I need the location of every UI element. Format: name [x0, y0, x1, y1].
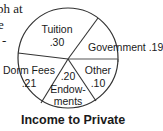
slice-value: .20 [50, 70, 86, 82]
slice-name: Other [83, 64, 113, 76]
slice-value: .19 [149, 41, 163, 53]
slice-value: .30 [40, 36, 74, 48]
slice-label-endowments: .20 Endow- ments [50, 70, 86, 107]
slice-label-dorm-fees: Dorm Fees .21 [3, 64, 55, 89]
slice-label-other: Other .10 [83, 64, 113, 89]
slice-label-government: Government .19 [88, 41, 163, 53]
slice-name: Tuition [40, 23, 74, 35]
slice-value: .10 [83, 77, 113, 89]
slice-label-tuition: Tuition .30 [40, 23, 74, 48]
slice-name-line2: ments [50, 95, 86, 107]
slice-name-line1: Endow- [50, 83, 86, 95]
slice-name: Government [88, 41, 146, 53]
slice-value: .21 [3, 77, 55, 89]
chart-title: Income to Private [21, 113, 125, 127]
slice-name: Dorm Fees [3, 64, 55, 76]
